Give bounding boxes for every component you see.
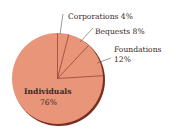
label-individuals-pct: 76% <box>40 99 57 108</box>
label-corporations: Corporations 4% <box>68 13 133 22</box>
label-bequests: Bequests 8% <box>95 28 145 37</box>
label-individuals: Individuals <box>24 88 71 97</box>
label-foundations-pct: 12% <box>114 56 131 65</box>
leader-bequests <box>80 28 93 42</box>
label-foundations: Foundations <box>114 46 161 55</box>
leader-corporations <box>60 14 63 34</box>
